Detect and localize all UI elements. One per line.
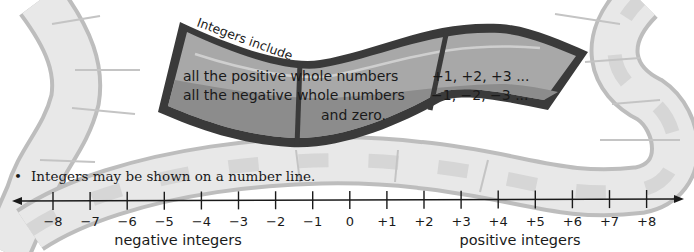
tick-label: −3 (229, 214, 248, 229)
banner-row-positive-description: all the positive whole numbers (183, 68, 398, 84)
integers-diagram: Integers include all the positive whole … (0, 0, 694, 252)
bullet-marker: • (14, 168, 22, 184)
tick-label: −5 (155, 214, 174, 229)
tick-label: −4 (192, 214, 211, 229)
banner-row-zero-description: and zero. (321, 107, 386, 123)
bullet-text: Integers may be shown on a number line. (31, 168, 315, 184)
tick-label: 0 (346, 214, 354, 229)
tick-label: +6 (563, 214, 582, 229)
banner-row-negative-description: all the negative whole numbers (183, 87, 405, 103)
tick-label: +2 (414, 214, 433, 229)
banner-row-negative-examples: −1, −2, −3 ... (431, 87, 529, 103)
tick-label: +4 (489, 214, 508, 229)
tick-label: −1 (303, 214, 322, 229)
tick-label: +8 (637, 214, 656, 229)
integers-banner (158, 22, 588, 147)
tick-label: +3 (452, 214, 471, 229)
tick-label: −6 (118, 214, 137, 229)
positive-integers-label: positive integers (460, 232, 581, 248)
tick-label: −7 (81, 214, 100, 229)
tick-label: +5 (526, 214, 545, 229)
tick-label: −2 (266, 214, 285, 229)
negative-integers-label: negative integers (114, 232, 242, 248)
tick-label: +1 (377, 214, 396, 229)
diagram-canvas: Integers include all the positive whole … (0, 0, 694, 252)
tick-label: +7 (600, 214, 619, 229)
tick-label: −8 (43, 214, 62, 229)
banner-row-positive-examples: +1, +2, +3 ... (432, 68, 530, 84)
